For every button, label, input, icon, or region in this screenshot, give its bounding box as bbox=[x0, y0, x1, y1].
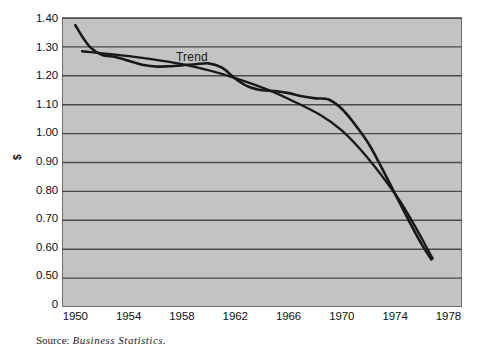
x-tick-label: 1962 bbox=[205, 311, 265, 323]
y-tick-label: 0.80 bbox=[14, 185, 58, 197]
source-label: Source: bbox=[36, 334, 70, 346]
figure-container: 1.40 1.30 1.20 1.10 1.00 0.90 0.80 0.70 … bbox=[0, 0, 483, 357]
x-tick-label: 1958 bbox=[152, 311, 212, 323]
x-tick-label: 1970 bbox=[312, 311, 372, 323]
x-tick-label: 1966 bbox=[259, 311, 319, 323]
y-tick-label: 1.40 bbox=[14, 13, 58, 25]
plot-area bbox=[62, 18, 462, 307]
trend-series-label: Trend bbox=[176, 50, 208, 64]
source-title: Business Statistics. bbox=[73, 334, 167, 346]
x-tick-label: 1950 bbox=[45, 311, 105, 323]
x-tick-label: 1974 bbox=[365, 311, 425, 323]
y-tick-label: 0.60 bbox=[14, 242, 58, 254]
y-tick-label: 1.10 bbox=[14, 99, 58, 111]
x-tick-label: 1978 bbox=[418, 311, 478, 323]
y-tick-label: 1.30 bbox=[14, 42, 58, 54]
source-note: Source:Business Statistics. bbox=[36, 334, 166, 346]
x-tick-label: 1954 bbox=[99, 311, 159, 323]
y-axis-tick-labels: 1.40 1.30 1.20 1.10 1.00 0.90 0.80 0.70 … bbox=[8, 0, 58, 357]
y-tick-label: 0 bbox=[14, 299, 58, 311]
y-tick-label: 0.50 bbox=[14, 270, 58, 282]
y-axis-title: $ bbox=[12, 154, 23, 160]
y-tick-label: 0.70 bbox=[14, 213, 58, 225]
y-tick-label: 1.20 bbox=[14, 70, 58, 82]
y-tick-label: 1.00 bbox=[14, 127, 58, 139]
